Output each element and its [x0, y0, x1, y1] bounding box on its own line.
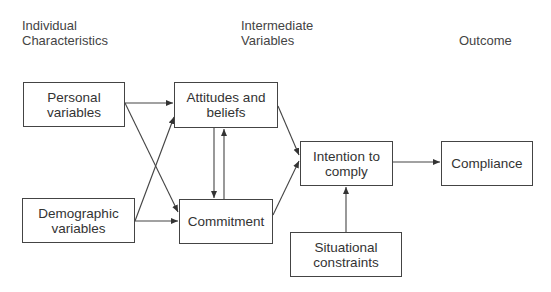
node-label: Commitment: [188, 214, 265, 229]
node-label: Demographic variables: [34, 206, 124, 236]
node-commitment: Commitment: [179, 199, 273, 244]
node-attitudes-beliefs: Attitudes and beliefs: [174, 82, 278, 128]
edge-attitudes-intention: [278, 106, 299, 155]
node-label: Compliance: [451, 156, 522, 171]
node-label: Attitudes and beliefs: [183, 90, 269, 120]
edge-demographic-attitudes: [135, 117, 174, 221]
node-compliance: Compliance: [441, 141, 533, 186]
node-demographic-variables: Demographic variables: [22, 198, 135, 243]
edge-personal-commitment: [125, 103, 178, 212]
node-situational-constraints: Situational constraints: [290, 232, 402, 277]
node-label: Situational constraints: [306, 240, 386, 270]
node-label: Intention to comply: [309, 149, 385, 179]
edge-commitment-intention: [273, 161, 299, 215]
node-personal-variables: Personal variables: [23, 82, 125, 127]
node-intention-to-comply: Intention to comply: [300, 141, 393, 186]
node-label: Personal variables: [39, 90, 109, 120]
